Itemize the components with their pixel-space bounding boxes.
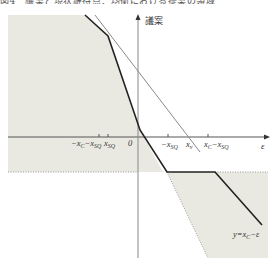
y-axis-label: 議案 bbox=[145, 15, 163, 26]
x-axis-label: ε bbox=[261, 141, 265, 151]
upper-left-shaded-region bbox=[8, 15, 163, 172]
y-axis-arrow-icon bbox=[136, 14, 141, 20]
tick-label-xc-xsq: xC−xSQ bbox=[203, 139, 229, 150]
tick-label-neg-xsq: −xSQ bbox=[161, 139, 179, 150]
line-equation-label: y=xC−ε bbox=[232, 229, 260, 240]
diagram-canvas: 議案 −xC−xSQ xSQ 0 −xSQ xv xC−xSQ ε y=xC−ε bbox=[0, 0, 276, 262]
x-axis-arrow-icon bbox=[264, 135, 270, 140]
